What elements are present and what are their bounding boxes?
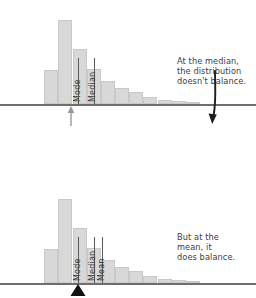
- mean-histogram-bars: [0, 149, 256, 283]
- histogram-bar: [115, 88, 129, 104]
- histogram-bar: [58, 20, 72, 104]
- histogram-bar: [143, 97, 157, 104]
- mean-label-bottom: Mean: [98, 258, 106, 281]
- histogram-bar: [101, 81, 115, 104]
- histogram-bar: [58, 199, 72, 283]
- median-annotation-text: At the median, the distribution doesn't …: [177, 56, 255, 87]
- median-panel: Mode Median At the median, the distribut…: [0, 0, 256, 149]
- histogram-bar: [44, 249, 58, 283]
- histogram-bar: [115, 267, 129, 283]
- histogram-bar: [143, 276, 157, 283]
- median-label-top: Median: [89, 72, 97, 102]
- histogram-bar: [129, 271, 143, 283]
- histogram-bar: [129, 92, 143, 104]
- histogram-bar: [44, 70, 58, 104]
- mean-panel: Mode Median Mean But at the mean, it doe…: [0, 149, 256, 298]
- statistics-figure: Mode Median At the median, the distribut…: [0, 0, 256, 298]
- median-histogram-bars: [0, 0, 256, 104]
- mode-label-bottom: Mode: [74, 258, 82, 281]
- mode-label-top: Mode: [74, 79, 82, 102]
- mean-annotation-text: But at the mean, it does balance.: [177, 232, 255, 263]
- median-baseline: [0, 104, 256, 106]
- mean-baseline: [0, 283, 256, 285]
